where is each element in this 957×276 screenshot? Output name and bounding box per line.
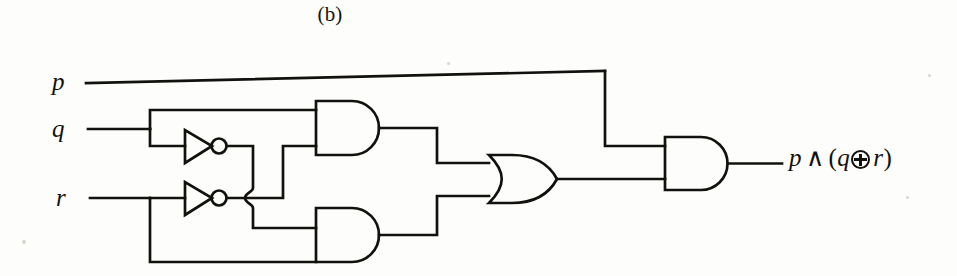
output-label-q: q [837, 144, 850, 171]
output-label-p: p [789, 144, 802, 171]
output-label: p∧(qr) [789, 143, 892, 172]
and-gate-final-body [665, 137, 728, 190]
wire-q-branch-up [150, 110, 316, 129]
wire-and-bottom-output [379, 196, 489, 235]
and-gate-bottom-body [316, 208, 379, 262]
input-label-q: q [52, 115, 65, 143]
wire-not-r-to-and-top [227, 146, 316, 198]
or-gate-body [489, 155, 557, 203]
wire-q-to-inverter [150, 129, 185, 146]
not-gate-1-triangle [185, 130, 212, 163]
xor-vertical-bar [859, 154, 862, 166]
output-label-and: ∧ [806, 144, 825, 171]
paper-speck [447, 62, 450, 65]
output-label-open-paren: ( [829, 144, 838, 171]
wire-p-drop [605, 71, 665, 146]
paper-speck [22, 240, 26, 244]
and-gate-top-body [316, 101, 379, 155]
input-label-p: p [52, 68, 65, 96]
wire-and-top-output [379, 128, 489, 163]
logic-circuit-svg [0, 0, 957, 276]
wire-r-branch-down [150, 198, 316, 262]
input-label-r: r [56, 184, 66, 212]
not-gate-2-triangle [185, 182, 212, 215]
wire-not-q-to-and-bottom [227, 146, 316, 228]
figure-container: (b) [0, 0, 957, 276]
output-label-r: r [873, 144, 883, 171]
xor-circled-plus-icon [851, 150, 870, 169]
output-label-close-paren: ) [884, 144, 893, 171]
wire-p-input [86, 71, 605, 83]
paper-speck [906, 196, 909, 199]
paper-speck [928, 74, 931, 77]
